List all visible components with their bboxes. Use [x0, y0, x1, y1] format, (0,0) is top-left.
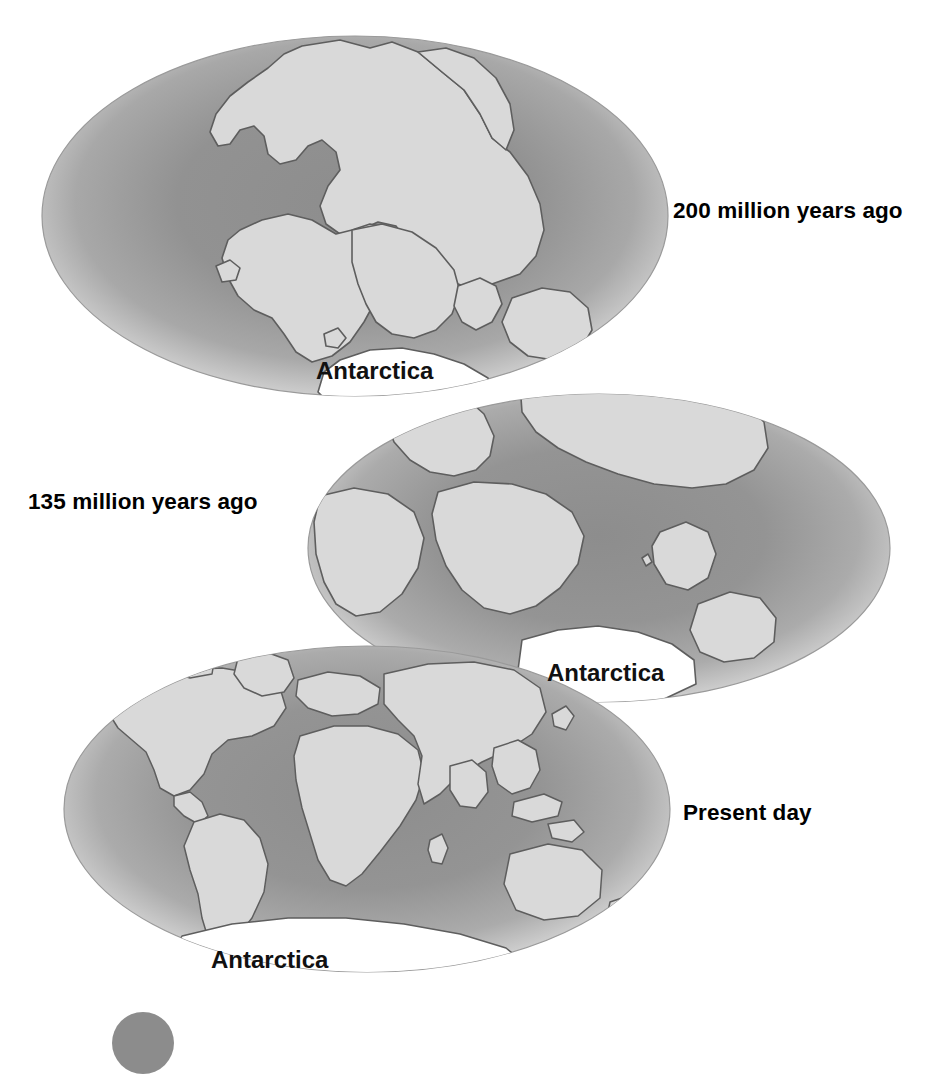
- corner-badge-circle: [112, 1012, 174, 1074]
- landmass-arctic-islands: [172, 654, 214, 678]
- landmass-australia-modern: [504, 844, 602, 920]
- globe-present-day: [62, 644, 672, 974]
- antarctica-label-globe-200ma: Antarctica: [316, 357, 433, 385]
- antarctica-label-globe-135ma: Antarctica: [547, 659, 664, 687]
- time-label-135-million-years-ago: 135 million years ago: [28, 489, 258, 515]
- landmass-new-zealand-2: [594, 922, 624, 938]
- time-label-present-day: Present day: [683, 800, 812, 826]
- antarctica-label-globe-present: Antarctica: [211, 946, 328, 974]
- globe-200-million-years-ago: [40, 34, 670, 398]
- time-label-200-million-years-ago: 200 million years ago: [673, 198, 903, 224]
- landmass-australia: [690, 592, 776, 662]
